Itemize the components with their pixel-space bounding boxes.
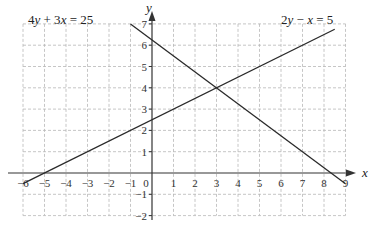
x-tick-label: −1 [125,177,137,189]
x-tick-label: 1 [171,177,177,189]
y-tick-label: 2 [142,124,148,136]
tick-labels: −6−5−4−3−2−11234567890−2−11234567 [17,18,349,222]
x-tick-label: 4 [235,177,241,189]
line-graph: x y −6−5−4−3−2−11234567890−2−11234567 4y… [0,0,382,230]
x-tick-label: 3 [214,177,220,189]
x-tick-label: 2 [192,177,198,189]
x-tick-label: −5 [39,177,51,189]
x-tick-label: −4 [60,177,72,189]
x-axis-label: x [361,165,368,180]
x-tick-label: −2 [103,177,115,189]
x-tick-label: 8 [321,177,327,189]
y-tick-label: 1 [142,146,148,158]
series-lines [23,24,346,184]
equation-labels: 4y + 3x = 25 2y − x = 5 [28,12,333,27]
y-tick-label: 7 [142,18,148,30]
y-tick-label: 3 [142,103,148,115]
y-tick-label: 5 [142,61,148,73]
x-tick-label: −3 [82,177,94,189]
y-tick-label: 6 [142,39,148,51]
y-tick-label: −1 [135,188,147,200]
x-tick-label: 7 [300,177,306,189]
equation-label-1: 4y + 3x = 25 [28,12,93,27]
x-tick-label: 5 [257,177,263,189]
x-axis-arrow-icon [346,170,356,177]
origin-label: 0 [143,177,149,189]
x-tick-label: 6 [278,177,284,189]
equation-label-2: 2y − x = 5 [281,12,333,27]
series-line-2 [23,29,335,183]
y-axis-label: y [144,0,152,15]
y-tick-label: −2 [135,210,147,222]
y-tick-label: 4 [142,82,148,94]
